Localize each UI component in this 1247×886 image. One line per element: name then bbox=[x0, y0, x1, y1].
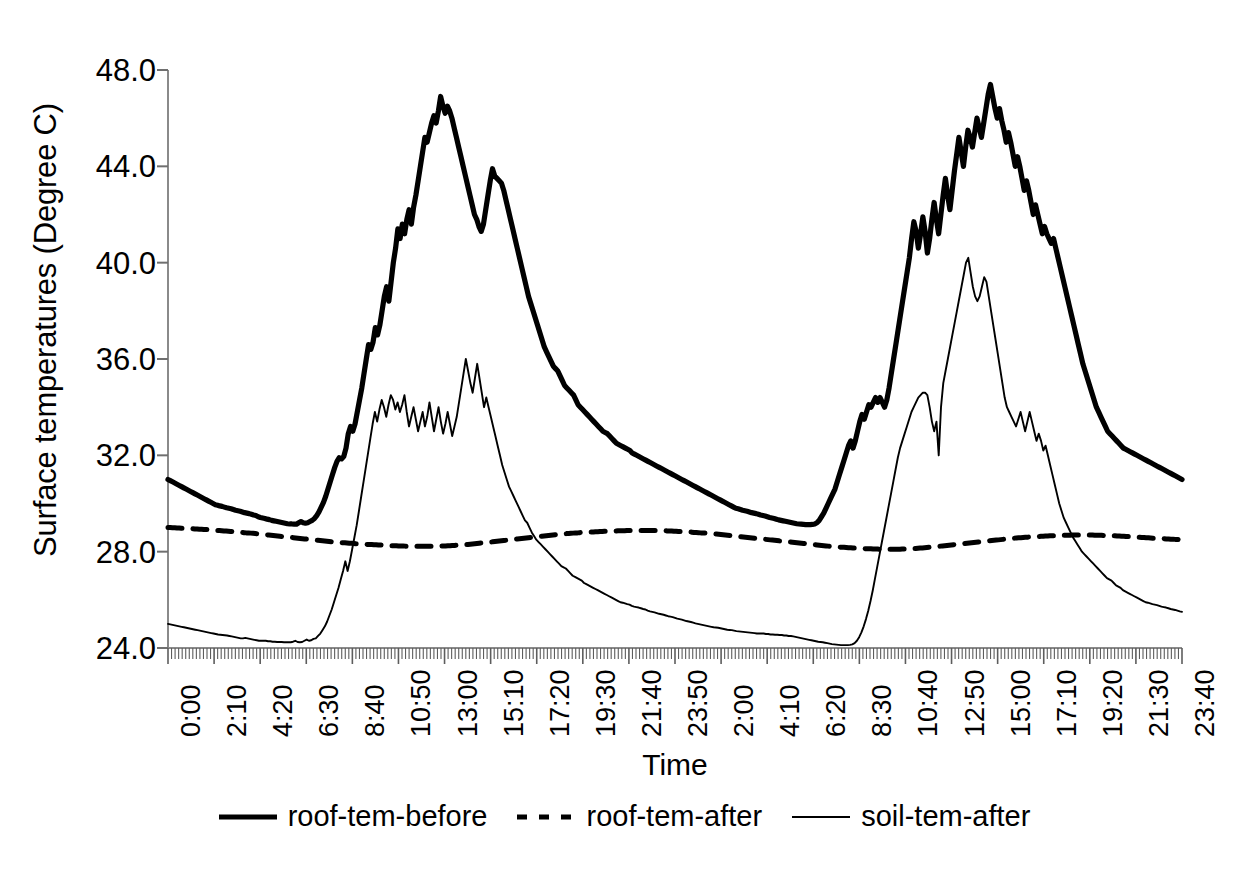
x-tick-label: 8:40 bbox=[362, 684, 389, 737]
x-tick-label: 13:00 bbox=[455, 669, 482, 737]
x-axis-title: Time bbox=[168, 748, 1182, 782]
x-tick-label: 21:30 bbox=[1146, 669, 1173, 737]
legend-swatch-thin-solid bbox=[790, 807, 852, 827]
x-tick-label: 8:30 bbox=[869, 684, 896, 737]
x-tick-label: 17:10 bbox=[1054, 669, 1081, 737]
x-tick-label: 6:30 bbox=[316, 684, 343, 737]
chart-figure: Surface temperatures (Degree C) 48.044.0… bbox=[0, 0, 1247, 886]
x-tick-label: 15:00 bbox=[1008, 669, 1035, 737]
chart-legend: roof-tem-beforeroof-tem-aftersoil-tem-af… bbox=[0, 800, 1247, 833]
x-tick-label: 10:40 bbox=[915, 669, 942, 737]
x-tick-label: 19:30 bbox=[593, 669, 620, 737]
x-tick-label: 4:20 bbox=[270, 684, 297, 737]
x-tick-label: 19:20 bbox=[1100, 669, 1127, 737]
legend-item-soil-tem-after: soil-tem-after bbox=[790, 800, 1030, 833]
legend-label: roof-tem-after bbox=[586, 800, 762, 833]
x-tick-label: 17:20 bbox=[547, 669, 574, 737]
x-tick-label: 2:00 bbox=[731, 684, 758, 737]
x-tick-label: 6:20 bbox=[823, 684, 850, 737]
x-tick-label: 15:10 bbox=[501, 669, 528, 737]
x-tick-label: 23:50 bbox=[685, 669, 712, 737]
x-tick-label: 23:40 bbox=[1192, 669, 1219, 737]
x-tick-label: 21:40 bbox=[639, 669, 666, 737]
legend-label: soil-tem-after bbox=[861, 800, 1030, 833]
x-tick-label: 2:10 bbox=[224, 684, 251, 737]
legend-swatch-thick-solid bbox=[217, 807, 279, 827]
legend-swatch-dashed bbox=[515, 807, 577, 827]
legend-label: roof-tem-before bbox=[288, 800, 488, 833]
x-tick-label: 10:50 bbox=[408, 669, 435, 737]
legend-item-roof-tem-before: roof-tem-before bbox=[217, 800, 488, 833]
x-tick-label: 0:00 bbox=[178, 684, 205, 737]
x-tick-label: 12:50 bbox=[962, 669, 989, 737]
x-tick-label: 4:10 bbox=[777, 684, 804, 737]
legend-item-roof-tem-after: roof-tem-after bbox=[515, 800, 762, 833]
